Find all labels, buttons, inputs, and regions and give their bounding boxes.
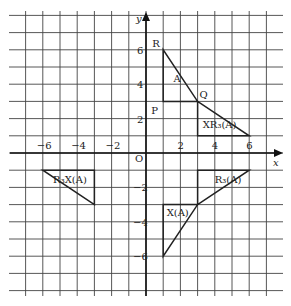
y-axis-arrow-icon [142,12,150,21]
y-tick-label: 4 [137,79,143,90]
shape-label: R₃(A) [215,174,242,185]
origin-label: O [135,153,143,164]
y-tick-label: −6 [133,251,148,262]
y-tick-label: 2 [137,114,143,125]
x-tick-label: −4 [71,140,86,151]
shape-label: A [173,73,182,84]
shape-label: R₃X(A) [53,174,87,185]
shape-label: XR₃(A) [203,119,237,130]
x-tick-label: 2 [177,140,183,151]
point-label-p: P [151,105,158,116]
x-tick-label: 4 [212,140,218,151]
coordinate-diagram: x y O −6−4−2246642−2−4−6 AXR₃(A)R₃(A)X(A… [0,0,291,306]
y-tick-label: −4 [133,217,148,228]
x-axis-label: x [273,157,279,168]
y-tick-label: −2 [133,182,148,193]
y-tick-label: 6 [137,45,143,56]
x-tick-label: −6 [37,140,52,151]
point-label-q: Q [200,89,208,100]
x-tick-label: 6 [246,140,252,151]
y-axis-label: y [135,13,142,24]
shape-label: X(A) [167,207,189,218]
point-label-r: R [152,38,160,49]
x-tick-label: −2 [106,140,121,151]
x-axis-arrow-icon [274,149,283,157]
